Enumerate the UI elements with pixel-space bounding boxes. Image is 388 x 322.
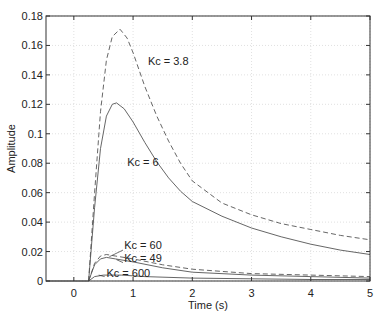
x-tick-label: 0 [71, 287, 77, 299]
curve-annotation: Kc = 3.8 [148, 55, 189, 67]
y-axis-label: Amplitude [5, 124, 17, 173]
y-tick-label: 0.14 [22, 69, 43, 81]
x-tick-label: 1 [130, 287, 136, 299]
line-chart: 01234500.020.040.060.080.10.120.140.160.… [0, 0, 388, 322]
grid-lines [46, 16, 370, 281]
series-lines [46, 29, 370, 281]
y-tick-label: 0.02 [22, 246, 43, 258]
x-tick-label: 5 [367, 287, 373, 299]
axes-box [46, 16, 370, 281]
y-tick-label: 0.06 [22, 187, 43, 199]
y-tick-label: 0.08 [22, 157, 43, 169]
curve-annotation: Kc = 600 [106, 267, 150, 279]
x-tick-label: 4 [308, 287, 314, 299]
y-tick-label: 0.12 [22, 98, 43, 110]
annotations: Kc = 3.8Kc = 6Kc = 60Kc = 49Kc = 600 [99, 55, 189, 279]
axis-ticks: 01234500.020.040.060.080.10.120.140.160.… [22, 10, 373, 299]
y-tick-label: 0.18 [22, 10, 43, 22]
y-tick-label: 0 [37, 275, 43, 287]
x-tick-label: 3 [248, 287, 254, 299]
y-tick-label: 0.1 [28, 128, 43, 140]
x-axis-label: Time (s) [188, 299, 228, 311]
curve-annotation: Kc = 49 [124, 252, 162, 264]
y-tick-label: 0.16 [22, 39, 43, 51]
curve-annotation: Kc = 6 [127, 156, 158, 168]
y-tick-label: 0.04 [22, 216, 43, 228]
curve-annotation: Kc = 60 [124, 239, 162, 251]
x-tick-label: 2 [189, 287, 195, 299]
